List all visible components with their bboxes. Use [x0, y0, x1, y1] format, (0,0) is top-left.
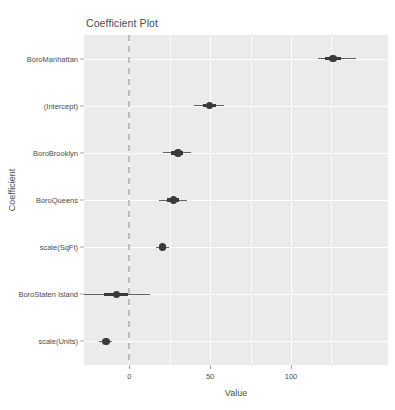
y-tick-mark	[80, 294, 84, 295]
coefficient-point	[170, 196, 178, 204]
x-tick-label: 0	[127, 372, 131, 381]
gridline-vertical-major	[210, 35, 211, 365]
y-tick-mark	[80, 152, 84, 153]
y-tick-mark	[80, 247, 84, 248]
y-tick-mark	[80, 105, 84, 106]
x-axis-title: Value	[84, 388, 388, 398]
coefficient-point	[174, 149, 182, 157]
y-tick-label: BoroStaten Island	[18, 290, 78, 299]
y-tick-mark	[80, 341, 84, 342]
y-tick-label: BoroBrooklyn	[33, 148, 78, 157]
x-tick-label: 50	[206, 372, 214, 381]
y-tick-label: (Intercept)	[44, 101, 78, 110]
coefficient-point	[113, 291, 121, 299]
x-tick-mark	[210, 365, 211, 369]
x-tick-mark	[291, 365, 292, 369]
gridline-vertical-minor	[331, 35, 332, 365]
coefficient-point	[102, 338, 110, 346]
gridline-vertical-major	[291, 35, 292, 365]
coefficient-point	[329, 55, 337, 63]
y-axis-title: Coefficient	[7, 155, 17, 225]
x-tick-label: 100	[285, 372, 298, 381]
coefficient-point	[206, 102, 214, 110]
y-tick-label: scale(Units)	[38, 337, 78, 346]
gridline-vertical-minor	[251, 35, 252, 365]
y-tick-mark	[80, 58, 84, 59]
x-tick-mark	[129, 365, 130, 369]
coefficient-plot: Coefficient Plot Coefficient Value BoroM…	[0, 0, 395, 410]
coefficient-point	[159, 243, 167, 251]
y-tick-mark	[80, 200, 84, 201]
y-tick-label: scale(SqFt)	[40, 243, 78, 252]
zero-reference-line	[128, 35, 130, 365]
plot-panel	[84, 35, 388, 365]
chart-title: Coefficient Plot	[86, 17, 158, 29]
y-tick-label: BoroManhattan	[27, 54, 78, 63]
y-tick-label: BoroQueens	[36, 196, 78, 205]
